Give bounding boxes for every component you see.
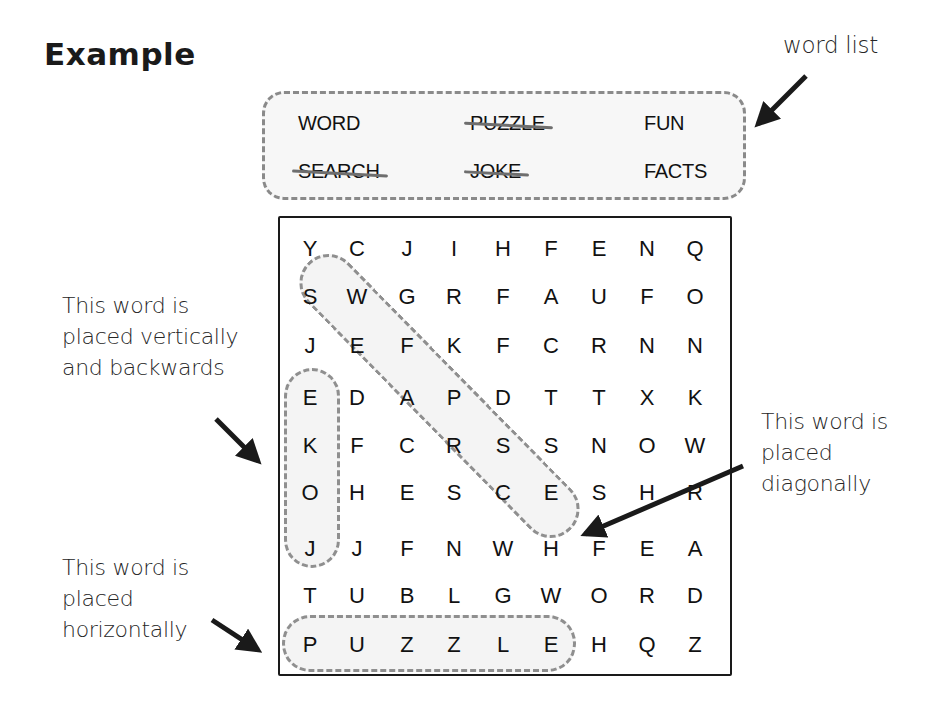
arrow-icon-word-list [758, 76, 806, 124]
arrow-icon-horizontal [212, 620, 258, 650]
arrow-icon-diagonal [585, 466, 743, 534]
arrow-icon-vertical [216, 419, 258, 461]
arrows-layer [0, 0, 952, 709]
